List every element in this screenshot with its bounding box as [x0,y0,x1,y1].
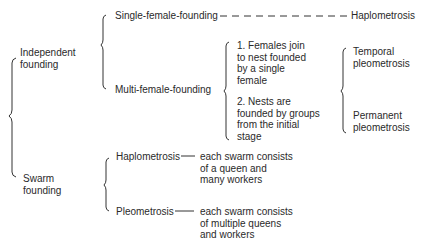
swarm-haplometrosis-description: each swarm consists of a queen and many … [200,151,293,186]
swarm-pleometrosis-description: each swarm consists of multiple queens a… [200,206,293,240]
permanent-pleometrosis-label: Permanent pleometrosis [353,110,410,133]
haplometrosis-result-label: Haplometrosis [351,10,415,22]
independent-founding-label: Independent founding [20,47,76,70]
multi-female-founding-label: Multi-female-founding [115,84,211,96]
root-brace [9,58,16,177]
mode-1-text: 1. Females join to nest founded by a sin… [237,40,306,86]
swarm-founding-label: Swarm founding [23,173,61,196]
swarm-haplometrosis-label: Haplometrosis [116,151,180,163]
modes-brace [224,42,229,140]
single-female-founding-label: Single-female-founding [115,10,218,22]
swarm-brace [104,158,109,211]
results-brace [341,48,346,133]
temporal-pleometrosis-label: Temporal pleometrosis [353,46,410,69]
swarm-pleometrosis-label: Pleometrosis [116,206,174,218]
mode-2-text: 2. Nests are founded by groups from the … [237,96,320,142]
independent-brace [101,15,106,89]
